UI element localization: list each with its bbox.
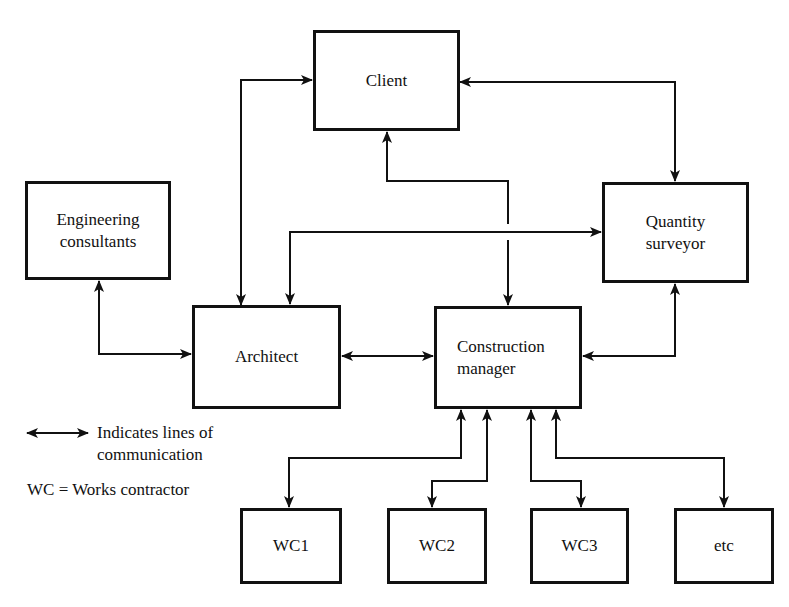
node-wc3-label: WC3 [562,535,598,557]
node-engineering-consultants-line1: Engineering [56,209,139,231]
node-wc3: WC3 [530,508,629,584]
legend-arrow-text: Indicates lines of communication [97,422,213,466]
edge-architect-qs [290,232,601,304]
node-client: Client [313,30,460,131]
legend-abbreviation: WC = Works contractor [27,479,189,501]
node-wc2-label: WC2 [419,535,455,557]
node-construction-manager: Construction manager [434,306,582,409]
node-wc2: WC2 [387,508,487,584]
node-architect: Architect [192,305,341,409]
edge-client-architect [241,80,312,305]
legend-arrow-line2: communication [97,444,213,466]
node-etc: etc [674,508,774,584]
node-quantity-surveyor: Quantity surveyor [602,182,749,283]
edge-cm-wc1 [289,410,461,507]
node-construction-manager-line1: Construction [457,336,545,358]
node-quantity-surveyor-line2: surveyor [646,233,706,255]
edge-client-qs [460,82,675,181]
node-quantity-surveyor-line1: Quantity [646,211,706,233]
node-wc1: WC1 [240,508,342,584]
legend-arrow-line1: Indicates lines of [97,422,213,444]
node-etc-label: etc [714,535,734,557]
node-architect-label: Architect [235,346,298,368]
node-construction-manager-line2: manager [457,358,545,380]
edge-eng-architect [99,281,191,354]
node-client-label: Client [366,70,408,92]
node-wc1-label: WC1 [273,535,309,557]
edge-qs-cm [583,284,675,356]
node-engineering-consultants: Engineering consultants [25,181,171,280]
node-engineering-consultants-line2: consultants [56,231,139,253]
edge-client-cm [387,132,508,224]
